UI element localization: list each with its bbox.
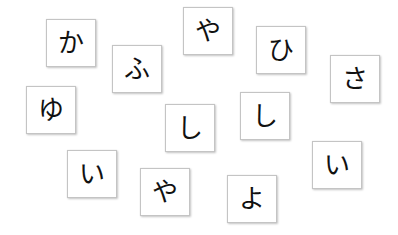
- hiragana-card-yo[interactable]: よ: [227, 175, 277, 223]
- card-glyph: ふ: [124, 56, 150, 82]
- hiragana-card-shi[interactable]: し: [165, 104, 215, 152]
- hiragana-card-sa[interactable]: さ: [330, 55, 380, 103]
- card-glyph: い: [324, 152, 350, 178]
- hiragana-card-hi[interactable]: ひ: [256, 26, 306, 74]
- card-glyph: ゆ: [38, 97, 64, 123]
- card-glyph: ひ: [268, 37, 294, 63]
- hiragana-card-i[interactable]: い: [312, 141, 362, 189]
- hiragana-card-fu[interactable]: ふ: [112, 45, 162, 93]
- hiragana-card-shi[interactable]: し: [240, 92, 290, 140]
- hiragana-card-ya[interactable]: や: [183, 7, 233, 55]
- card-glyph: い: [79, 161, 105, 187]
- card-glyph: し: [252, 103, 278, 129]
- card-glyph: さ: [342, 66, 368, 92]
- card-glyph: か: [58, 30, 84, 56]
- hiragana-card-i[interactable]: い: [67, 150, 117, 198]
- card-glyph: や: [195, 18, 221, 44]
- hiragana-card-ka[interactable]: か: [46, 19, 96, 67]
- card-glyph: よ: [239, 186, 265, 212]
- hiragana-card-ya[interactable]: や: [140, 168, 190, 216]
- card-glyph: し: [177, 115, 203, 141]
- hiragana-card-yu[interactable]: ゆ: [26, 86, 76, 134]
- card-glyph: や: [152, 179, 178, 205]
